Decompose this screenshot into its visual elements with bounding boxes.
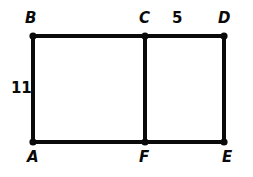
vertex-label-d: D xyxy=(218,11,230,26)
vertex-dot-B xyxy=(29,32,36,39)
vertex-label-b: B xyxy=(25,11,36,26)
vertex-dot-F xyxy=(141,138,148,145)
vertex-dot-D xyxy=(220,32,227,39)
measurement-label-ab: 11 xyxy=(11,81,31,96)
vertex-dot-C xyxy=(141,32,148,39)
measurement-label-cd: 5 xyxy=(172,11,182,26)
vertex-label-f: F xyxy=(139,150,149,165)
vertex-dot-A xyxy=(29,138,36,145)
vertex-label-e: E xyxy=(222,150,232,165)
vertex-label-c: C xyxy=(139,11,150,26)
vertex-label-a: A xyxy=(27,150,39,165)
geometry-figure: B C D A F E 11 5 xyxy=(0,0,253,177)
vertex-dot-E xyxy=(220,138,227,145)
